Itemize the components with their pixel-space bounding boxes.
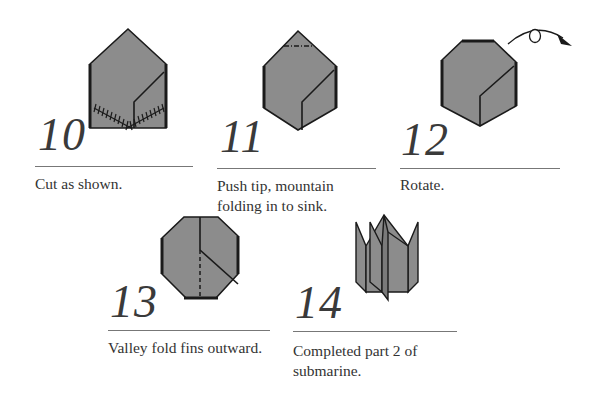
divider-rule [35,166,193,167]
step-number: 11 [220,114,265,160]
divider-rule [108,330,270,331]
divider-rule [217,168,376,169]
divider-rule [293,331,457,332]
step-caption: Rotate. [400,175,444,195]
step-13-figure [158,214,242,302]
step-caption-line-1: Completed part 2 of [293,341,417,361]
step-11-figure [260,28,342,132]
step-10-figure [86,26,170,132]
step-caption: Cut as shown. [35,174,122,194]
step-caption-line-2: folding in to sink. [217,196,327,216]
step-12-figure [438,38,522,128]
step-caption-line-1: Push tip, mountain [217,176,334,196]
step-number: 12 [401,117,449,163]
rotate-arrow-icon [505,24,575,50]
step-number: 13 [110,279,158,325]
step-caption: Valley fold fins outward. [108,338,262,358]
step-number: 14 [295,280,343,326]
step-caption-line-2: submarine. [293,361,361,381]
divider-rule [400,168,560,169]
step-14-figure [352,212,422,304]
step-number: 10 [38,112,86,158]
